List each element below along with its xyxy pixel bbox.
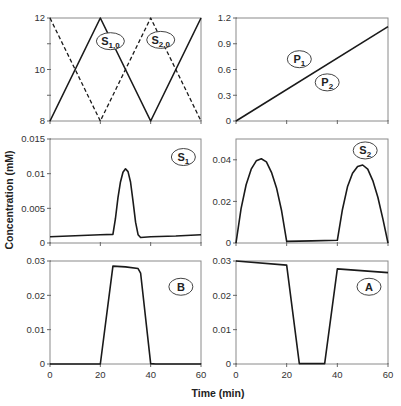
y-tick-label: 0 — [226, 115, 231, 126]
x-axis-title: Time (min) — [192, 387, 245, 399]
y-tick-label: 0.005 — [21, 203, 45, 214]
plot-frame — [236, 18, 388, 121]
y-tick-label: 0 — [226, 237, 231, 248]
x-tick-label: 60 — [196, 369, 207, 380]
y-tick-label: 0.015 — [21, 133, 45, 144]
x-tick-label: 0 — [47, 369, 52, 380]
y-tick-label: 0 — [40, 237, 45, 248]
y-tick-label: 8 — [40, 115, 45, 126]
y-tick-label: 0.01 — [27, 324, 46, 335]
y-tick-label: 0.03 — [213, 255, 232, 266]
y-tick-label: 0 — [226, 358, 231, 369]
y-tick-label: 0.02 — [213, 196, 232, 207]
y-tick-label: 12 — [34, 12, 45, 23]
figure: Concentration (mM) Time (min) 81012S1,0S… — [0, 0, 401, 406]
chart-panel-middle-left: 00.0050.010.015S1 — [21, 133, 201, 248]
plot-frame — [236, 261, 388, 364]
series-annotation-label: A — [365, 281, 373, 293]
x-tick-label: 20 — [281, 369, 292, 380]
y-tick-label: 0.6 — [218, 64, 231, 75]
chart-panel-bottom-left: 00.010.020.030204060B — [27, 255, 207, 380]
y-tick-label: 0.3 — [218, 90, 231, 101]
y-tick-label: 10 — [34, 64, 45, 75]
y-tick-label: 0.01 — [213, 324, 232, 335]
y-tick-label: 0.04 — [213, 154, 232, 165]
series-line-a — [236, 261, 388, 364]
series-line-s2-0 — [50, 18, 201, 121]
y-tick-label: 0.9 — [218, 38, 231, 49]
x-tick-label: 40 — [145, 369, 156, 380]
x-tick-label: 0 — [233, 369, 238, 380]
x-tick-label: 40 — [332, 369, 343, 380]
series-line-s1 — [50, 169, 201, 238]
y-axis-title: Concentration (mM) — [3, 150, 15, 249]
y-tick-label: 0.03 — [27, 255, 46, 266]
chart-panel-top-right: 00.30.60.91.2P1P2 — [218, 12, 388, 126]
chart-panel-top-left: 81012S1,0S2,0 — [34, 12, 201, 126]
chart-panel-bottom-right: 00.010.020.030204060A — [213, 255, 394, 380]
series-line-p1-p2 — [236, 27, 388, 121]
y-tick-label: 0.02 — [213, 290, 232, 301]
y-tick-label: 0.01 — [27, 168, 46, 179]
series-line-s2 — [236, 159, 388, 243]
chart-panel-middle-right: 00.020.04S2 — [213, 139, 389, 248]
y-tick-label: 1.2 — [218, 12, 231, 23]
y-tick-label: 0.02 — [27, 290, 46, 301]
x-tick-label: 60 — [383, 369, 394, 380]
plot-frame — [50, 261, 201, 364]
y-tick-label: 0 — [40, 358, 45, 369]
x-tick-label: 20 — [95, 369, 106, 380]
series-annotation-label: B — [177, 281, 185, 293]
